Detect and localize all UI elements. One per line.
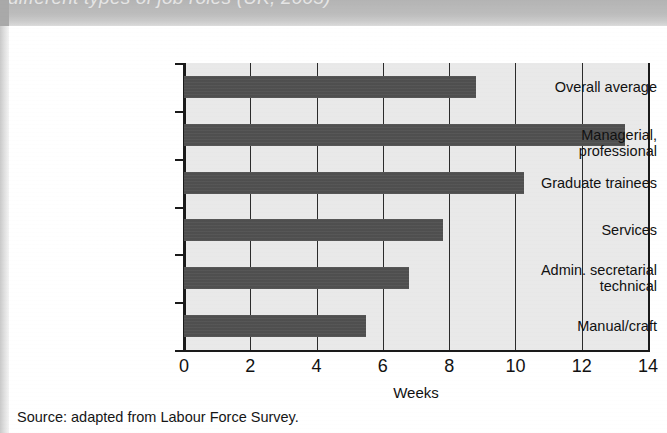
gridline-8	[449, 63, 450, 350]
category-label-4: Admin. secretarialtechnical	[501, 262, 667, 294]
scan-gutter-top	[0, 0, 9, 26]
figure-caption-text: different types of job roles (UK, 2003)	[8, 0, 331, 9]
x-tick-label-14: 14	[628, 356, 667, 377]
gridline-2	[250, 63, 251, 350]
gridline-4	[317, 63, 318, 350]
gridline-14	[648, 63, 650, 350]
x-axis-title: Weeks	[184, 384, 648, 401]
category-label-line: technical	[501, 278, 657, 294]
category-label-line: Manual/craft	[501, 318, 657, 334]
figure-caption-band: different types of job roles (UK, 2003)	[0, 0, 667, 26]
x-tick-label-2: 2	[230, 356, 270, 377]
bar-admin-secretarial-technical	[184, 267, 409, 289]
x-tick-label-0: 0	[164, 356, 204, 377]
x-tick-label-6: 6	[363, 356, 403, 377]
y-axis-tick-2	[175, 159, 185, 161]
category-label-0: Overall average	[501, 79, 667, 95]
y-axis-tick-3	[175, 207, 185, 209]
bar-manual-craft	[184, 315, 366, 337]
plot-area	[184, 63, 650, 350]
y-axis-tick-6	[175, 350, 185, 352]
x-tick-label-10: 10	[495, 356, 535, 377]
bar-overall-average	[184, 76, 476, 98]
x-tick-label-12: 12	[562, 356, 602, 377]
category-label-2: Graduate trainees	[501, 175, 667, 191]
y-axis-tick-1	[175, 111, 185, 113]
source-note: Source: adapted from Labour Force Survey…	[17, 409, 299, 425]
y-axis-tick-0	[175, 63, 185, 65]
x-tick-label-8: 8	[429, 356, 469, 377]
x-axis-line	[183, 350, 650, 352]
category-label-3: Services	[501, 222, 667, 238]
bar-chart-figure: Overall averageManagerial, professionalG…	[9, 26, 667, 433]
bar-services	[184, 219, 443, 241]
category-label-5: Manual/craft	[501, 318, 667, 334]
category-label-line: Managerial, professional	[501, 127, 657, 159]
category-label-line: Graduate trainees	[501, 175, 657, 191]
gridline-6	[383, 63, 384, 350]
category-label-line: Services	[501, 222, 657, 238]
y-axis-tick-4	[175, 254, 185, 256]
category-label-1: Managerial, professional	[501, 127, 667, 159]
scanned-page: different types of job roles (UK, 2003) …	[0, 0, 667, 433]
bar-graduate-trainees	[184, 172, 524, 194]
scan-gutter	[0, 26, 9, 433]
gridline-10	[515, 63, 516, 350]
gridline-12	[582, 63, 583, 350]
x-tick-label-4: 4	[297, 356, 337, 377]
category-label-line: Admin. secretarial	[501, 262, 657, 278]
y-axis-tick-5	[175, 302, 185, 304]
category-label-line: Overall average	[501, 79, 657, 95]
